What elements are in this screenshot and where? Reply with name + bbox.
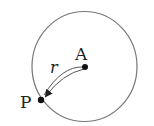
- center-point-a: [82, 64, 88, 70]
- label-a: A: [74, 44, 88, 64]
- diagram-canvas: A P r: [0, 0, 154, 126]
- circle-diagram: A P r: [0, 0, 154, 126]
- label-p: P: [20, 92, 31, 112]
- label-r: r: [50, 58, 59, 77]
- circle-point-p: [38, 97, 44, 103]
